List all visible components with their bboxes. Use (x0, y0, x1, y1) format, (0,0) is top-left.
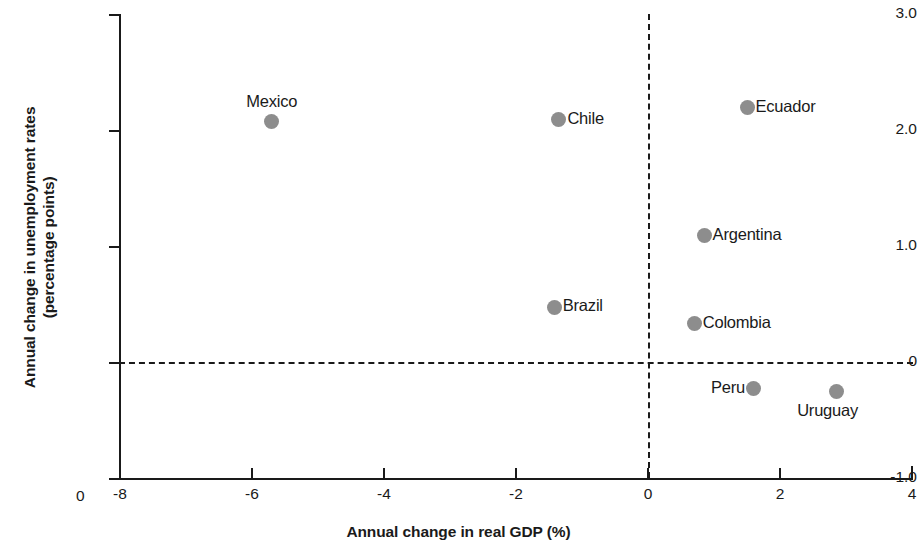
zero-reference-line-vertical (648, 14, 650, 478)
y-tick-mark (109, 246, 120, 248)
x-tick-mark (251, 468, 253, 480)
x-tick-mark (383, 468, 385, 480)
x-tick-mark (515, 468, 517, 480)
y-tick-label: -1.0 (813, 468, 917, 486)
y-tick-mark (109, 14, 120, 16)
data-point-label: Chile (567, 109, 604, 128)
data-point-label: Argentina (713, 225, 782, 244)
data-point-marker (829, 384, 844, 399)
y-tick-label: 2.0 (813, 120, 917, 138)
data-point-label: Uruguay (738, 401, 858, 420)
y-tick-label: 1.0 (813, 236, 917, 254)
x-tick-label: 0 (618, 485, 678, 503)
x-tick-mark (779, 468, 781, 480)
data-point-marker (547, 300, 562, 315)
data-point-marker (551, 112, 566, 127)
y-tick-mark (109, 130, 120, 132)
x-tick-mark (119, 468, 121, 480)
x-tick-label: -6 (222, 485, 282, 503)
x-tick-label: 4 (882, 485, 922, 503)
x-tick-label: -2 (486, 485, 546, 503)
data-point-marker (687, 316, 702, 331)
zero-reference-line-horizontal (119, 362, 913, 364)
x-tick-label: 2 (750, 485, 810, 503)
data-point-label: Ecuador (756, 97, 816, 116)
data-point-marker (740, 100, 755, 115)
data-point-marker (746, 381, 761, 396)
data-point-label: Peru (625, 378, 745, 397)
data-point-label: Brazil (563, 296, 603, 315)
data-point-label: Mexico (212, 92, 332, 111)
data-point-marker (697, 228, 712, 243)
y-tick-label: 0 (813, 352, 917, 370)
y-axis-label: Annual change in unemployment rates (per… (20, 12, 59, 482)
data-point-label: Colombia (703, 313, 771, 332)
x-axis-label: Annual change in real GDP (%) (0, 523, 917, 541)
x-tick-label: -8 (90, 485, 150, 503)
x-tick-label: -4 (354, 485, 414, 503)
origin-corner-label: 0 (76, 487, 85, 505)
data-point-marker (264, 114, 279, 129)
y-tick-label: 3.0 (813, 4, 917, 22)
